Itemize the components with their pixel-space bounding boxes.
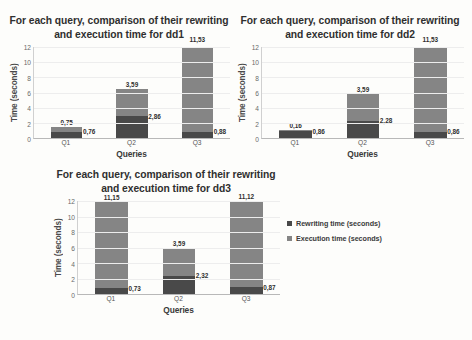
bar-segment-execution[interactable] (182, 47, 214, 132)
y-tick-12: 12 (24, 44, 31, 51)
legend-swatch-rewriting-icon (287, 221, 292, 226)
legend-item-rewriting: Rewriting time (seconds) (287, 219, 382, 228)
plot-dd1: 0,750,763,592,8611,530,88 (33, 47, 230, 139)
x-axis-label-dd3: Queries (77, 305, 280, 315)
gridline (34, 123, 230, 124)
y-axis-label-dd1: Time (seconds) (8, 47, 20, 139)
x-axis-ticks-dd2: Q1Q2Q3 (261, 139, 464, 146)
y-axis-label-dd3: Time (seconds) (52, 201, 64, 295)
bar-label-total-Q3: 11,53 (422, 36, 438, 43)
bar-segment-rewriting[interactable] (95, 288, 128, 294)
x-tick-Q2: Q2 (106, 139, 157, 146)
y-tick-2: 2 (255, 120, 259, 127)
gridline (262, 108, 464, 109)
bar-label-rewriting-Q3: 0,86 (447, 128, 459, 135)
y-tick-4: 4 (255, 105, 259, 112)
legend-label-rewriting: Rewriting time (seconds) (296, 219, 380, 228)
y-tick-10: 10 (24, 59, 31, 66)
x-axis-label-dd1: Queries (33, 149, 230, 159)
x-tick-Q3: Q3 (404, 139, 457, 146)
gridline (78, 232, 280, 233)
y-tick-6: 6 (255, 90, 259, 97)
y-tick-10: 10 (252, 59, 259, 66)
bar-segment-execution[interactable] (414, 47, 447, 132)
bar-label-total-Q2: 3,59 (357, 86, 369, 93)
plot-dd3: 11,150,733,592,3211,120,87 (77, 201, 280, 295)
x-axis-ticks-dd3: Q1Q2Q3 (77, 295, 280, 302)
bar-segment-execution[interactable] (230, 201, 263, 287)
x-axis-label-dd2: Queries (261, 149, 464, 159)
y-tick-10: 10 (68, 213, 75, 220)
bar-label-rewriting-Q1: 0,86 (312, 128, 324, 135)
chart-legend: Rewriting time (seconds) Execution time … (287, 219, 382, 249)
gridline (78, 201, 280, 202)
bar-label-total-Q1: 11,15 (104, 194, 120, 201)
bar-segment-rewriting[interactable] (279, 131, 312, 138)
chart-panel-dd3: For each query, comparison of their rewr… (52, 168, 280, 328)
gridline (78, 217, 280, 218)
y-tick-12: 12 (252, 44, 259, 51)
chart-panel-dd1: For each query, comparison of their rewr… (8, 14, 230, 164)
gridline (262, 93, 464, 94)
x-axis-ticks-dd1: Q1Q2Q3 (33, 139, 230, 146)
gridline (262, 62, 464, 63)
x-axis-dd3: Q1Q2Q3 Queries (52, 295, 280, 315)
y-tick-0: 0 (27, 136, 31, 143)
bar-segment-rewriting[interactable] (116, 116, 148, 138)
x-tick-Q2: Q2 (336, 139, 389, 146)
gridline (34, 77, 230, 78)
bar-label-total-Q2: 3,59 (126, 81, 138, 88)
gridline (34, 93, 230, 94)
y-tick-8: 8 (71, 229, 75, 236)
y-tick-0: 0 (255, 136, 259, 143)
y-axis-ticks-dd3: 024681012 (64, 201, 77, 295)
legend-swatch-execution-icon (287, 236, 292, 241)
chart-title-dd3: For each query, comparison of their rewr… (52, 168, 280, 195)
chart-plot-area-dd3: Time (seconds) 024681012 11,150,733,592,… (52, 201, 280, 295)
y-axis-label-dd2: Time (seconds) (236, 47, 248, 139)
bar-label-total-Q3: 11,53 (189, 36, 205, 43)
gridline (34, 47, 230, 48)
y-tick-4: 4 (71, 260, 75, 267)
y-axis-ticks-dd2: 024681012 (248, 47, 261, 139)
gridline (78, 263, 280, 264)
gridline (78, 248, 280, 249)
plot-dd2: 0,160,863,592,2811,530,86 (261, 47, 464, 139)
x-tick-Q1: Q1 (40, 139, 91, 146)
gridline (78, 279, 280, 280)
bar-label-rewriting-Q2: 2,86 (148, 113, 160, 120)
y-axis-ticks-dd1: 024681012 (20, 47, 33, 139)
bar-label-total-Q3: 11,12 (238, 193, 254, 200)
bar-segment-rewriting[interactable] (414, 132, 447, 138)
y-tick-6: 6 (27, 90, 31, 97)
x-tick-Q1: Q1 (268, 139, 321, 146)
y-tick-6: 6 (71, 245, 75, 252)
y-tick-2: 2 (71, 276, 75, 283)
y-tick-8: 8 (27, 74, 31, 81)
bar-label-total-Q2: 3,59 (173, 240, 185, 247)
gridline (262, 47, 464, 48)
chart-plot-area-dd1: Time (seconds) 024681012 0,750,763,592,8… (8, 47, 230, 139)
bar-label-rewriting-Q1: 0,73 (128, 285, 140, 292)
x-axis-dd2: Q1Q2Q3 Queries (236, 139, 464, 159)
bar-segment-rewriting[interactable] (182, 132, 214, 138)
gridline (34, 108, 230, 109)
legend-item-execution: Execution time (seconds) (287, 234, 382, 243)
gridline (262, 123, 464, 124)
chart-plot-area-dd2: Time (seconds) 024681012 0,160,863,592,2… (236, 47, 464, 139)
x-tick-Q2: Q2 (152, 295, 205, 302)
bar-segment-rewriting[interactable] (230, 287, 263, 294)
gridline (34, 62, 230, 63)
bar-label-rewriting-Q3: 0,87 (263, 284, 275, 291)
legend-label-execution: Execution time (seconds) (296, 234, 382, 243)
bar-label-rewriting-Q1: 0,76 (83, 128, 95, 135)
x-axis-dd1: Q1Q2Q3 Queries (8, 139, 230, 159)
y-tick-4: 4 (27, 105, 31, 112)
y-tick-0: 0 (71, 292, 75, 299)
x-tick-Q1: Q1 (84, 295, 137, 302)
y-tick-2: 2 (27, 120, 31, 127)
x-tick-Q3: Q3 (172, 139, 223, 146)
bar-segment-execution[interactable] (95, 202, 128, 288)
bar-segment-rewriting[interactable] (51, 132, 83, 138)
gridline (262, 77, 464, 78)
